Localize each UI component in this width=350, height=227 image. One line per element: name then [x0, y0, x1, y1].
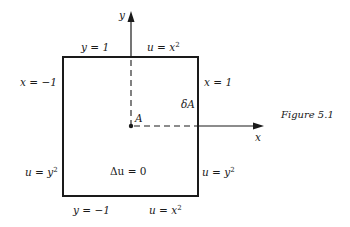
point-a-label: A: [135, 113, 143, 124]
y-axis-label: y: [119, 10, 125, 21]
boundary-label: δA: [181, 99, 195, 110]
label-top-left: y = 1: [81, 42, 109, 53]
label-right-top: x = 1: [204, 77, 232, 88]
figure-5-1: y x A δA Δu = 0 y = 1 u = x2 x = −1 x = …: [0, 0, 350, 227]
x-axis-arrow-icon: [253, 123, 264, 130]
y-axis-arrow-icon: [128, 11, 135, 22]
label-top-right-base: u = x: [147, 41, 175, 53]
label-bottom-right: u = x2: [149, 205, 182, 216]
label-left-top: x = −1: [20, 77, 57, 88]
x-axis-label: x: [255, 132, 261, 143]
figure-caption: Figure 5.1: [281, 110, 334, 120]
laplace-equation: Δu = 0: [110, 166, 147, 177]
label-bottom-left: y = −1: [73, 205, 110, 216]
label-left-bottom-exp: 2: [53, 166, 57, 174]
label-left-bottom: u = y2: [25, 167, 58, 178]
label-right-bottom: u = y2: [202, 167, 235, 178]
label-right-bottom-base: u = y: [202, 166, 230, 178]
label-bottom-right-base: u = x: [149, 204, 177, 216]
point-a-dot: [129, 124, 133, 128]
label-left-bottom-base: u = y: [25, 166, 53, 178]
label-bottom-right-exp: 2: [177, 204, 181, 212]
label-top-right: u = x2: [147, 42, 180, 53]
label-top-right-exp: 2: [175, 41, 179, 49]
label-right-bottom-exp: 2: [230, 166, 234, 174]
